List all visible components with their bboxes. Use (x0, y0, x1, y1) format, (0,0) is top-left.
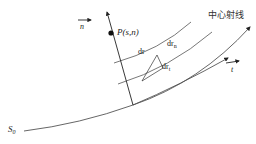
dr-n-label: drn (167, 40, 177, 49)
n-vector-label: n (80, 23, 84, 31)
origin-s0-label: S0 (8, 125, 16, 135)
origin-sub: 0 (13, 129, 16, 135)
baseline-curve (24, 58, 228, 131)
dr-t-sub: t (169, 66, 171, 72)
ray-coordinate-diagram (0, 0, 256, 144)
t-vector-arrow (226, 61, 239, 63)
t-vector-label: t (231, 66, 233, 74)
point-p-dot (108, 30, 113, 35)
dr-n-base: dr (167, 39, 174, 48)
dr-n-sub: n (174, 43, 177, 49)
differential-triangle (142, 55, 163, 81)
central-ray-label: 中心射线 (208, 11, 244, 20)
point-p-label: P(s,n) (117, 28, 139, 37)
dr-t-base: dr (162, 62, 169, 71)
dr-t-label: drt (162, 63, 170, 72)
dr-label: dr (138, 48, 145, 56)
wavefront-curve-lower (118, 32, 212, 84)
